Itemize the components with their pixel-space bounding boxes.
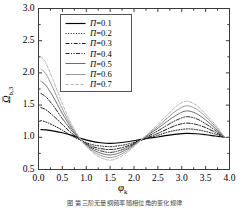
y-axis-tick-label: 3.0 <box>9 3 35 13</box>
x-axis-tick-label: 3.5 <box>193 173 219 183</box>
legend-line-sample <box>65 19 86 28</box>
legend-item: Π=0.3 <box>65 38 127 48</box>
x-axis-tick-label: 1.0 <box>73 173 99 183</box>
y-axis-tick-label: 2.5 <box>9 35 35 45</box>
legend-label: Π=0.3 <box>90 38 112 48</box>
figure-caption: 图 第三阶无量纲频率随相位角的变化规律 <box>0 198 249 207</box>
legend-label: Π=0.6 <box>90 69 112 79</box>
x-axis-tick-label: 1.5 <box>97 173 123 183</box>
x-axis-tick-label: 0.5 <box>49 173 75 183</box>
x-axis-tick-label: 4.0 <box>217 173 243 183</box>
x-axis-label: φk <box>118 181 128 195</box>
series-line-1 <box>41 130 225 144</box>
legend-label: Π=0.5 <box>90 59 112 69</box>
x-axis-tick-label: 2.5 <box>145 173 171 183</box>
x-axis-tick-label: 0.0 <box>26 173 52 183</box>
y-axis-tick-label: 1.0 <box>9 131 35 141</box>
legend-line-sample <box>65 59 86 68</box>
legend-label: Π=0.2 <box>90 28 112 38</box>
legend-item: Π=0.2 <box>65 28 127 38</box>
legend-item: Π=0.6 <box>65 69 127 79</box>
legend-item: Π=0.4 <box>65 49 127 59</box>
x-axis-tick-label: 3.0 <box>169 173 195 183</box>
chart-figure: Ωb,3 φk Π=0.1Π=0.2Π=0.3Π=0.4Π=0.5Π=0.6Π=… <box>0 0 249 211</box>
legend-line-sample <box>65 29 86 38</box>
legend-label: Π=0.7 <box>90 79 112 89</box>
legend-line-sample <box>65 70 86 79</box>
y-axis-label: Ωb,3 <box>0 72 14 118</box>
legend-line-sample <box>65 49 86 58</box>
y-axis-tick-label: 1.5 <box>9 99 35 109</box>
legend-line-sample <box>65 80 86 89</box>
y-axis-tick-label: 2.0 <box>9 67 35 77</box>
x-axis-tick-label: 2.0 <box>121 173 147 183</box>
legend-line-sample <box>65 39 86 48</box>
legend-label: Π=0.4 <box>90 49 112 59</box>
legend-label: Π=0.1 <box>90 18 112 28</box>
legend-item: Π=0.7 <box>65 79 127 89</box>
legend: Π=0.1Π=0.2Π=0.3Π=0.4Π=0.5Π=0.6Π=0.7 <box>60 14 132 92</box>
legend-item: Π=0.1 <box>65 18 127 28</box>
legend-item: Π=0.5 <box>65 59 127 69</box>
